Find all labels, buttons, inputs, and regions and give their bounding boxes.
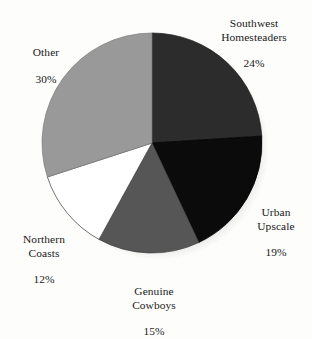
pie-label-southwest-homesteaders: Southwest Homesteaders 24%: [198, 4, 310, 84]
pie-label-northern-coasts: Northern Coasts 12%: [0, 220, 88, 300]
pie-label-southwest-homesteaders-value: 24%: [198, 57, 310, 70]
pie-label-northern-coasts-name: Northern Coasts: [0, 233, 88, 260]
pie-label-other-value: 30%: [2, 73, 90, 86]
pie-label-other: Other 30%: [2, 33, 90, 100]
pie-label-urban-upscale-value: 19%: [243, 246, 309, 259]
pie-label-other-name: Other: [2, 46, 90, 59]
pie-label-urban-upscale-name: Urban Upscale: [243, 206, 309, 233]
pie-label-southwest-homesteaders-name: Southwest Homesteaders: [198, 17, 310, 44]
pie-label-urban-upscale: Urban Upscale 19%: [243, 193, 309, 273]
pie-label-genuine-cowboys-name: Genuine Cowboys: [104, 285, 204, 312]
pie-label-northern-coasts-value: 12%: [0, 273, 88, 286]
pie-label-genuine-cowboys-value: 15%: [104, 325, 204, 338]
pie-label-genuine-cowboys: Genuine Cowboys 15%: [104, 272, 204, 339]
